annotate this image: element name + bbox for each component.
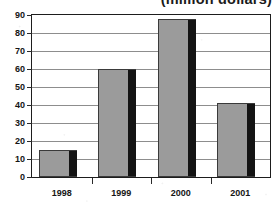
bar-slot [32, 15, 92, 177]
x-axis-label-1998: 1998 [52, 188, 72, 198]
bar-slot [151, 15, 211, 177]
bar-shadow [188, 20, 196, 176]
bar-shadow [128, 70, 136, 176]
y-axis-tick-label: 60 [15, 64, 25, 74]
x-axis-label-2000: 2000 [171, 188, 191, 198]
y-axis-tick-label: 0 [20, 172, 25, 182]
y-axis-tick-label: 30 [15, 118, 25, 128]
x-axis-tick [151, 178, 152, 184]
x-axis-label-1999: 1999 [111, 188, 131, 198]
x-axis-tick [92, 178, 93, 184]
bar-shadow [247, 104, 255, 176]
y-axis-tick-label: 50 [15, 82, 25, 92]
y-axis-tick-label: 70 [15, 46, 25, 56]
y-axis-tick-label: 20 [15, 136, 25, 146]
y-axis-tick [27, 177, 32, 178]
bar-slot [211, 15, 271, 177]
x-axis-label-2001: 2001 [230, 188, 250, 198]
bar-1999 [98, 69, 136, 177]
bar-shadow [69, 151, 77, 176]
y-axis-tick-label: 10 [15, 154, 25, 164]
x-axis-tick [211, 178, 212, 184]
plot-area: 0102030405060708090 [31, 14, 271, 178]
bar-2000 [158, 19, 196, 177]
bar-slot [92, 15, 152, 177]
y-axis-tick-label: 90 [15, 10, 25, 20]
y-axis-tick-label: 40 [15, 100, 25, 110]
bar-1998 [39, 150, 77, 177]
bar-2001 [217, 103, 255, 177]
chart-title: (million dollars) [161, 0, 272, 7]
y-axis-tick-label: 80 [15, 28, 25, 38]
